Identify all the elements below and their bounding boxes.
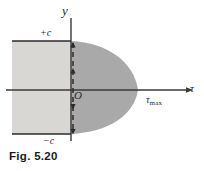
y-axis-label: y <box>62 4 68 17</box>
figure-5-20: y +c −c O τ τmax Fig. 5.20 <box>0 0 204 171</box>
top-boundary-label: +c <box>40 28 51 38</box>
origin-label: O <box>74 90 82 101</box>
figure-graphic <box>0 0 204 171</box>
bottom-boundary-label: −c <box>43 136 54 146</box>
parabolic-stress-region <box>71 41 138 134</box>
tau-axis-label: τ <box>190 83 194 94</box>
figure-caption: Fig. 5.20 <box>9 150 58 162</box>
tau-max-subscript: max <box>150 99 163 107</box>
tau-max-label: τmax <box>146 95 162 107</box>
cross-section-rectangle <box>12 41 71 134</box>
